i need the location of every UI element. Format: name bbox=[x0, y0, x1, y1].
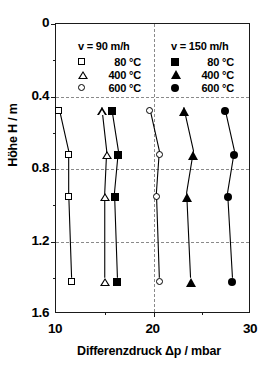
data-point bbox=[232, 278, 240, 286]
series-markers bbox=[56, 24, 251, 314]
square-filled-icon bbox=[108, 107, 116, 115]
y-tick-label-0: 0 bbox=[3, 15, 49, 30]
x-axis-title: Differenzdruck Δp / mbar bbox=[34, 344, 264, 358]
y-tick-label-4: 1.6 bbox=[3, 305, 49, 320]
triangle-open-icon bbox=[97, 107, 107, 115]
data-point bbox=[159, 151, 166, 158]
data-point bbox=[117, 278, 125, 286]
data-point bbox=[69, 193, 76, 200]
triangle-open-icon bbox=[102, 151, 112, 159]
circle-filled-icon bbox=[221, 107, 229, 115]
circle-open-icon bbox=[153, 193, 160, 200]
triangle-filled-icon bbox=[188, 151, 198, 160]
data-point bbox=[72, 278, 79, 285]
circle-open-icon bbox=[156, 151, 163, 158]
data-point bbox=[234, 151, 242, 159]
square-filled-icon bbox=[113, 278, 121, 286]
y-tick-label-1: 0.4 bbox=[3, 88, 49, 103]
data-point bbox=[115, 193, 123, 201]
data-point bbox=[156, 193, 163, 200]
square-open-icon bbox=[55, 107, 62, 114]
data-point bbox=[59, 107, 66, 114]
data-point bbox=[69, 151, 76, 158]
plot-area: v = 90 m/h 80 °C 400 °C 600 °C v = 150 m… bbox=[55, 23, 250, 313]
triangle-open-icon bbox=[100, 193, 110, 201]
x-tick-label-1: 20 bbox=[133, 321, 173, 336]
triangle-filled-icon bbox=[182, 193, 192, 202]
y-tick-label-3: 1.2 bbox=[3, 233, 49, 248]
x-tick-label-0: 10 bbox=[35, 321, 75, 336]
data-point bbox=[187, 193, 197, 202]
circle-open-icon bbox=[156, 278, 163, 285]
square-open-icon bbox=[65, 151, 72, 158]
triangle-filled-icon bbox=[179, 107, 189, 116]
triangle-open-icon bbox=[100, 278, 110, 286]
circle-filled-icon bbox=[224, 193, 232, 201]
data-point bbox=[150, 107, 157, 114]
data-point bbox=[228, 193, 236, 201]
triangle-filled-icon bbox=[186, 278, 196, 287]
square-filled-icon bbox=[114, 151, 122, 159]
circle-filled-icon bbox=[230, 151, 238, 159]
data-point bbox=[225, 107, 233, 115]
square-filled-icon bbox=[111, 193, 119, 201]
data-point bbox=[118, 151, 126, 159]
data-point bbox=[191, 278, 201, 287]
chart-container: Höhe H / m 0 0.4 0.8 1.2 1.6 10 20 30 Di… bbox=[0, 0, 268, 372]
square-open-icon bbox=[65, 193, 72, 200]
data-point bbox=[112, 107, 120, 115]
y-tick-label-2: 0.8 bbox=[3, 160, 49, 175]
circle-filled-icon bbox=[228, 278, 236, 286]
circle-open-icon bbox=[146, 107, 153, 114]
data-point bbox=[184, 107, 194, 116]
x-tick-label-2: 30 bbox=[230, 321, 268, 336]
square-open-icon bbox=[68, 278, 75, 285]
data-point bbox=[159, 278, 166, 285]
data-point bbox=[193, 151, 203, 160]
